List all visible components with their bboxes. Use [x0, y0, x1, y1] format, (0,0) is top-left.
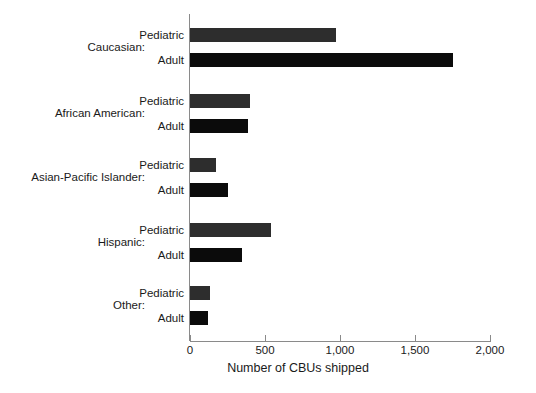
bar-label-adult: Adult	[120, 119, 184, 133]
bar-label-pediatric: Pediatric	[120, 28, 184, 42]
bar-adult	[190, 119, 248, 133]
bar-pediatric	[190, 286, 210, 300]
bar-label-pediatric: Pediatric	[120, 286, 184, 300]
bar-row: Adult	[0, 119, 536, 133]
bar-adult	[190, 53, 453, 67]
x-tick-label-0: 0	[187, 344, 193, 357]
x-tick-500	[265, 335, 266, 342]
bar-adult	[190, 248, 242, 262]
bar-adult	[190, 311, 208, 325]
bar-label-adult: Adult	[120, 183, 184, 197]
bar-label-pediatric: Pediatric	[120, 158, 184, 172]
bar-row: Pediatric	[0, 286, 536, 300]
x-tick-label-1500: 1,500	[401, 344, 430, 357]
x-tick-2000	[490, 335, 491, 342]
x-tick-1000	[340, 335, 341, 342]
bar-row: Adult	[0, 53, 536, 67]
x-tick-1500	[415, 335, 416, 342]
bar-row: Pediatric	[0, 94, 536, 108]
bar-row: Adult	[0, 311, 536, 325]
bar-label-pediatric: Pediatric	[120, 94, 184, 108]
x-tick-label-2000: 2,000	[476, 344, 505, 357]
x-tick-label-500: 500	[255, 344, 274, 357]
bar-label-adult: Adult	[120, 53, 184, 67]
bar-pediatric	[190, 94, 250, 108]
bar-pediatric	[190, 223, 271, 237]
bar-adult	[190, 183, 228, 197]
x-axis-title: Number of CBUs shipped	[0, 361, 536, 375]
bar-row: Pediatric	[0, 223, 536, 237]
y-axis-line	[189, 14, 190, 341]
bar-label-adult: Adult	[120, 248, 184, 262]
bar-pediatric	[190, 158, 216, 172]
bar-row: Adult	[0, 248, 536, 262]
bar-row: Pediatric	[0, 158, 536, 172]
x-tick-0	[190, 335, 191, 342]
x-axis-title-text: Number of CBUs shipped	[227, 361, 369, 375]
bar-row: Adult	[0, 183, 536, 197]
x-tick-label-1000: 1,000	[326, 344, 355, 357]
bar-label-adult: Adult	[120, 311, 184, 325]
bar-pediatric	[190, 28, 336, 42]
bar-row: Pediatric	[0, 28, 536, 42]
bar-chart: Caucasian:PediatricAdultAfrican American…	[0, 0, 536, 393]
bar-label-pediatric: Pediatric	[120, 223, 184, 237]
